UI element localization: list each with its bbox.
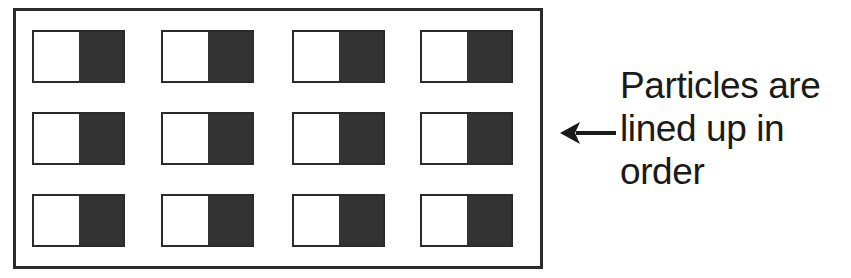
particle-dark-half: [339, 32, 384, 81]
particle-light-half: [34, 32, 79, 81]
caption-line-2: lined up in: [620, 107, 850, 150]
particle-r2-c4: [420, 112, 513, 165]
particle-r1-c3: [292, 30, 385, 83]
particle-r3-c4: [420, 194, 513, 247]
particle-dark-half: [208, 32, 253, 81]
particle-dark-half: [339, 114, 384, 163]
particle-dark-half: [208, 196, 253, 245]
particle-r1-c4: [420, 30, 513, 83]
caption-line-1: Particles are: [620, 64, 850, 107]
particle-r2-c1: [32, 112, 125, 165]
particle-r3-c1: [32, 194, 125, 247]
caption-line-3: order: [620, 150, 850, 193]
particle-light-half: [294, 114, 339, 163]
particle-light-half: [163, 32, 208, 81]
particle-dark-half: [79, 32, 124, 81]
particle-container-box: [13, 8, 543, 269]
particle-light-half: [422, 196, 467, 245]
particle-light-half: [163, 196, 208, 245]
particle-r1-c2: [161, 30, 254, 83]
particle-light-half: [294, 196, 339, 245]
particle-dark-half: [208, 114, 253, 163]
particle-light-half: [163, 114, 208, 163]
particle-dark-half: [467, 196, 512, 245]
particle-r1-c1: [32, 30, 125, 83]
particle-grid: [32, 30, 532, 260]
annotation-caption: Particles are lined up in order: [620, 64, 850, 193]
particle-light-half: [294, 32, 339, 81]
arrow-left-icon: [558, 118, 618, 148]
particle-diagram: Particles are lined up in order: [0, 0, 851, 278]
particle-dark-half: [467, 114, 512, 163]
particle-r2-c2: [161, 112, 254, 165]
particle-light-half: [34, 114, 79, 163]
particle-r3-c2: [161, 194, 254, 247]
particle-light-half: [34, 196, 79, 245]
particle-r2-c3: [292, 112, 385, 165]
particle-r3-c3: [292, 194, 385, 247]
particle-dark-half: [339, 196, 384, 245]
particle-dark-half: [79, 114, 124, 163]
particle-light-half: [422, 32, 467, 81]
particle-dark-half: [467, 32, 512, 81]
particle-dark-half: [79, 196, 124, 245]
particle-light-half: [422, 114, 467, 163]
